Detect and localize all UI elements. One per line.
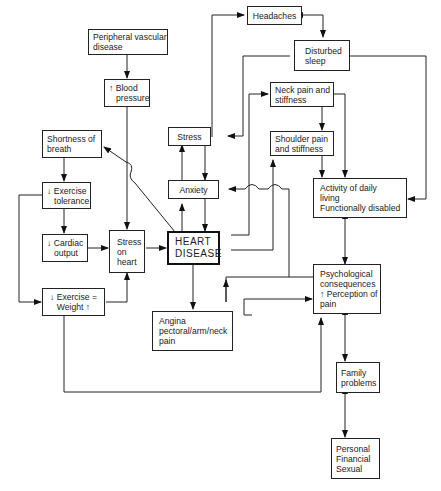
node-angina: Angina pectoral/arm/neck pain (152, 311, 233, 351)
edge-stress-headaches (212, 15, 244, 137)
node-stress-on-heart: Stress on heart (109, 230, 145, 273)
edge-hd-shoulder (231, 160, 273, 250)
node-peripheral-vascular-disease: Peripheral vascular disease (88, 29, 168, 55)
edge-hd-sob (104, 147, 175, 232)
edge-et-ew (19, 195, 42, 302)
node-shortness-of-breath: Shortness of breath (42, 130, 102, 158)
node-exercise-weight: ↓ Exercise = Weight ↑ (42, 288, 105, 316)
node-psychological-consequences: Psychological consequences ↑ Perception … (313, 264, 381, 314)
flow-diagram: Peripheral vascular disease ↑ Blood pres… (0, 0, 441, 491)
edge-psych-branch (226, 277, 289, 302)
edge-neck-adl (334, 94, 345, 177)
node-personal-financial-sexual: Personal Financial Sexual (331, 438, 380, 479)
node-shoulder-pain: Shoulder pain and stiffness (270, 131, 334, 156)
node-exercise-tolerance: ↓ Exercise tolerance (42, 182, 91, 209)
edge-hd-neck (231, 94, 268, 235)
node-heart-disease: HEART DISEASE (167, 231, 220, 265)
node-anxiety: Anxiety (168, 180, 219, 199)
edge-headaches-sleep (302, 15, 323, 37)
edge-ew-soh (106, 273, 127, 302)
node-blood-pressure: ↑ Blood pressure (104, 79, 150, 107)
edge-angina-psych (244, 299, 312, 315)
node-headaches: Headaches (247, 6, 302, 25)
node-neck-pain: Neck pain and stiffness (270, 82, 334, 107)
node-stress: Stress (168, 127, 211, 146)
node-activity-of-daily-living: Activity of daily living Functionally di… (313, 178, 407, 218)
node-disturbed-sleep: Disturbed sleep (294, 40, 350, 71)
edge-psych-anx (229, 185, 313, 278)
node-cardiac-output: ↓ Cardiac output (42, 234, 88, 262)
node-family-problems: Family problems (336, 362, 380, 393)
